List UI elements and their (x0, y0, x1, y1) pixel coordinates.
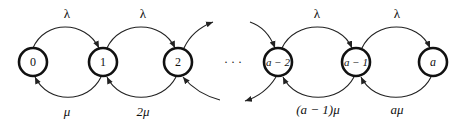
rate-label-mu: μ (63, 104, 71, 119)
state-node-0: 0 (19, 48, 47, 76)
rate-label-a-mu: aμ (390, 102, 404, 117)
arrow-2-out (184, 22, 213, 48)
rate-label-lambda: λ (314, 6, 321, 21)
arrow-in-a-2 (250, 22, 275, 48)
arrow-a-1-to-a (362, 27, 430, 48)
rate-label-lambda: λ (64, 6, 71, 21)
arrow-1-to-2 (107, 27, 175, 48)
arrow-1-to-0 (35, 77, 101, 97)
state-diagram: 0 1 2 · · · a − 2 a − 1 a λ λ λ λ μ 2μ (… (0, 0, 465, 125)
arrow-a-1-to-a-2 (283, 77, 354, 97)
state-node-a-minus-2: a − 2 (264, 48, 292, 76)
rate-label-lambda: λ (394, 6, 401, 21)
state-node-a: a (419, 48, 447, 76)
rate-label-2mu: 2μ (136, 104, 150, 119)
arrow-2-to-1 (107, 77, 176, 97)
state-node-2: 2 (164, 48, 192, 76)
rate-label-lambda: λ (140, 6, 147, 21)
arrow-a-2-out (245, 77, 276, 101)
state-node-1: 1 (89, 48, 117, 76)
state-label: a − 2 (266, 56, 290, 68)
state-label: a (430, 55, 436, 69)
arrow-out-to-2 (183, 77, 220, 100)
state-label: 1 (100, 55, 106, 69)
arrow-0-to-1 (33, 27, 99, 48)
ellipsis: · · · (224, 55, 242, 69)
arrow-a-2-to-a-1 (282, 27, 352, 48)
state-label: a − 1 (344, 56, 368, 68)
state-label: 0 (30, 55, 36, 69)
state-node-a-minus-1: a − 1 (342, 48, 370, 76)
arrow-a-to-a-1 (361, 77, 431, 97)
rate-label-a-minus-1-mu: (a − 1)μ (296, 102, 340, 117)
state-label: 2 (175, 55, 181, 69)
